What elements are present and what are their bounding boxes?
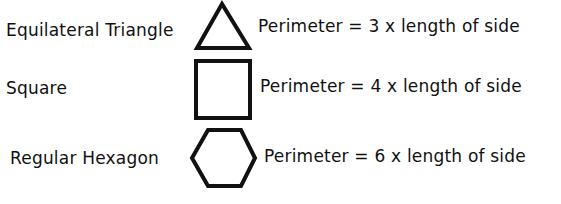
label-square: Square: [6, 78, 67, 98]
formula-hexagon: Perimeter = 6 x length of side: [264, 146, 526, 166]
label-triangle: Equilateral Triangle: [6, 20, 174, 40]
square-icon: [196, 61, 250, 118]
formula-triangle: Perimeter = 3 x length of side: [258, 16, 520, 36]
hexagon-icon: [192, 130, 255, 186]
triangle-icon: [197, 4, 249, 48]
label-hexagon: Regular Hexagon: [10, 148, 159, 168]
formula-square: Perimeter = 4 x length of side: [260, 76, 522, 96]
